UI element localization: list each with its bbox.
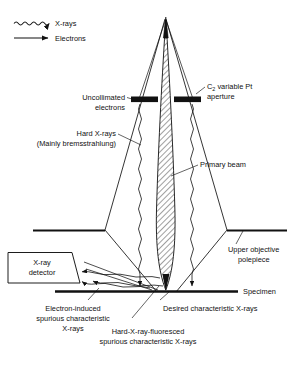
label-electron-induced-line3: X-rays: [62, 324, 84, 333]
xray-detector-label-line1: X-ray: [33, 258, 51, 267]
label-hard-fluoresced-line1: Hard-X-ray-fluoresced: [112, 327, 185, 336]
xray-detector: X-ray detector: [8, 253, 80, 284]
label-electron-induced-line1: Electron-induced: [45, 304, 100, 313]
c2-aperture-bar-right: [174, 97, 201, 103]
c2-aperture-bar-left: [131, 97, 158, 103]
label-hard-xrays-line1: Hard X-rays: [77, 129, 117, 138]
label-desired-char-xrays: Desired characteristic X-rays: [163, 304, 258, 313]
label-uncollimated-electrons-line2: electrons: [95, 103, 125, 112]
label-hard-fluoresced-line2: spurious characteristic X-rays: [100, 337, 197, 346]
xray-generation-diagram: X-rays Electrons: [0, 0, 295, 368]
label-hard-xrays-line2: (Mainly bremsstrahlung): [37, 139, 116, 148]
label-electron-induced-line2: spurious characteristic: [36, 314, 110, 323]
label-upper-objective-line2: polepiece: [238, 255, 270, 264]
label-c2-aperture-line2: aperture: [207, 92, 235, 101]
label-upper-objective-line1: Upper objective: [228, 245, 279, 254]
legend-label-electrons: Electrons: [55, 34, 86, 43]
c2-suffix: variable Pt: [215, 82, 252, 91]
label-primary-beam: Primary beam: [200, 160, 246, 169]
xray-detector-label-line2: detector: [29, 268, 56, 277]
label-specimen: Specimen: [243, 287, 276, 296]
legend-label-xrays: X-rays: [55, 19, 77, 28]
label-uncollimated-electrons-line1: Uncollimated: [82, 93, 125, 102]
